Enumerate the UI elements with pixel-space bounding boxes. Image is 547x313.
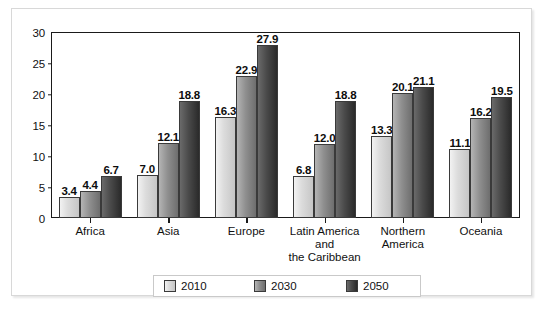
bar[interactable]: 7.0 xyxy=(137,175,158,218)
x-axis-category-label: Oceania xyxy=(459,225,502,238)
x-axis-category-line: Asia xyxy=(157,225,179,238)
chart-legend: 201020302050 xyxy=(153,275,421,297)
bar[interactable]: 13.3 xyxy=(371,136,392,218)
bar-value-label: 18.8 xyxy=(178,89,200,101)
bar-group: 13.320.121.1 xyxy=(371,32,434,218)
bar-value-label: 6.7 xyxy=(103,164,118,176)
figure-root: 051015202530 3.44.46.77.012.118.816.322.… xyxy=(0,0,547,313)
legend-swatch-icon xyxy=(254,280,266,292)
legend-swatch-icon xyxy=(346,280,358,292)
legend-item[interactable]: 2030 xyxy=(254,280,297,292)
x-axis-category-line: Europe xyxy=(228,225,265,238)
bar[interactable]: 19.5 xyxy=(491,97,512,218)
bar[interactable]: 4.4 xyxy=(80,191,101,218)
x-axis-category-line: Oceania xyxy=(459,225,502,238)
x-axis-tick-mark xyxy=(481,218,482,223)
bar-value-label: 16.3 xyxy=(215,105,237,117)
x-axis-tick-mark xyxy=(168,218,169,223)
bar-group: 11.116.219.5 xyxy=(449,32,512,218)
legend-label: 2010 xyxy=(181,280,207,292)
x-axis-category-line: America xyxy=(380,238,425,251)
bar[interactable]: 20.1 xyxy=(392,93,413,218)
bar[interactable]: 12.1 xyxy=(158,143,179,218)
bar[interactable]: 6.8 xyxy=(293,176,314,218)
x-axis-category-line: Africa xyxy=(75,225,104,238)
y-axis-tick-label: 0 xyxy=(39,213,52,225)
bar-value-label: 19.5 xyxy=(491,85,513,97)
x-axis-tick-mark xyxy=(246,218,247,223)
x-axis-category-line: the Caribbean xyxy=(288,251,360,264)
bar-value-label: 7.0 xyxy=(140,163,155,175)
bar[interactable]: 18.8 xyxy=(335,101,356,218)
bar-value-label: 27.9 xyxy=(257,33,279,45)
bar-value-label: 21.1 xyxy=(413,75,435,87)
bar-group: 6.812.018.8 xyxy=(293,32,356,218)
bar-value-label: 12.0 xyxy=(314,132,336,144)
bar-value-label: 18.8 xyxy=(335,89,357,101)
bar-value-label: 13.3 xyxy=(371,124,393,136)
x-axis-category-line: and xyxy=(288,238,360,251)
bar[interactable]: 27.9 xyxy=(257,45,278,218)
bar-value-label: 6.8 xyxy=(296,164,311,176)
x-axis-tick-mark xyxy=(325,218,326,223)
legend-swatch-icon xyxy=(164,280,176,292)
x-axis-category-label: Asia xyxy=(157,225,179,238)
bar-group: 3.44.46.7 xyxy=(59,32,122,218)
bars-layer: 3.44.46.77.012.118.816.322.927.96.812.01… xyxy=(51,32,520,218)
legend-item[interactable]: 2010 xyxy=(164,280,207,292)
bar-value-label: 20.1 xyxy=(392,81,414,93)
bar[interactable]: 22.9 xyxy=(236,76,257,218)
x-axis-category-line: Northern xyxy=(380,225,425,238)
bar-group: 7.012.118.8 xyxy=(137,32,200,218)
legend-label: 2030 xyxy=(271,280,297,292)
bar[interactable]: 18.8 xyxy=(179,101,200,218)
x-axis-category-label: Latin Americaandthe Caribbean xyxy=(288,225,360,264)
x-axis-category-label: NorthernAmerica xyxy=(380,225,425,251)
bar[interactable]: 16.2 xyxy=(470,118,491,218)
bar[interactable]: 3.4 xyxy=(59,197,80,218)
bar-value-label: 3.4 xyxy=(61,185,76,197)
bar[interactable]: 6.7 xyxy=(101,176,122,218)
bar[interactable]: 21.1 xyxy=(413,87,434,218)
y-axis-tick-label: 30 xyxy=(32,27,52,39)
bar-value-label: 11.1 xyxy=(449,137,470,149)
x-axis-tick-mark xyxy=(90,218,91,223)
legend-label: 2050 xyxy=(363,280,389,292)
x-axis-category-line: Latin America xyxy=(288,225,360,238)
bar-value-label: 22.9 xyxy=(236,64,258,76)
bar[interactable]: 12.0 xyxy=(314,144,335,218)
x-axis-tick-mark xyxy=(403,218,404,223)
bar[interactable]: 11.1 xyxy=(449,149,470,218)
x-axis-category-label: Europe xyxy=(228,225,265,238)
bar-value-label: 16.2 xyxy=(470,106,492,118)
bar-value-label: 4.4 xyxy=(82,179,97,191)
bar-group: 16.322.927.9 xyxy=(215,32,278,218)
legend-item[interactable]: 2050 xyxy=(346,280,389,292)
x-axis-category-label: Africa xyxy=(75,225,104,238)
figure-frame: 051015202530 3.44.46.77.012.118.816.322.… xyxy=(11,8,532,296)
bar[interactable]: 16.3 xyxy=(215,117,236,218)
bar-value-label: 12.1 xyxy=(157,131,179,143)
